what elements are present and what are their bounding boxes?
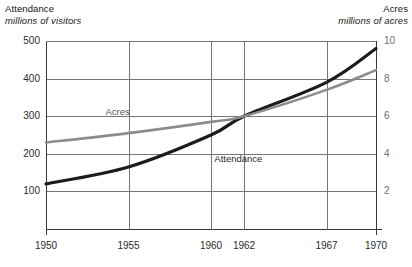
y-tick-label-left: 400 xyxy=(8,74,40,84)
y-tick-label-left: 100 xyxy=(8,186,40,196)
y-tick-label-right: 4 xyxy=(384,149,412,159)
y-tick-label-left: 500 xyxy=(8,36,40,46)
plot-area xyxy=(0,0,412,267)
x-tick-label: 1962 xyxy=(219,241,269,251)
y-tick-label-right: 8 xyxy=(384,74,412,84)
y-tick-label-left: 300 xyxy=(8,111,40,121)
x-tick-label: 1950 xyxy=(21,241,71,251)
y-tick-label-left: 200 xyxy=(8,149,40,159)
series-annotation-attendance: Attendance xyxy=(214,154,262,164)
x-tick-label: 1955 xyxy=(104,241,154,251)
y-tick-label-right: 6 xyxy=(384,111,412,121)
y-tick-label-right: 2 xyxy=(384,186,412,196)
dual-axis-line-chart: Attendance millions of visitors Acres mi… xyxy=(0,0,412,267)
y-tick-label-right: 10 xyxy=(384,36,412,46)
series-annotation-acres: Acres xyxy=(105,107,129,117)
x-tick-label: 1967 xyxy=(302,241,352,251)
x-tick-label: 1970 xyxy=(351,241,401,251)
